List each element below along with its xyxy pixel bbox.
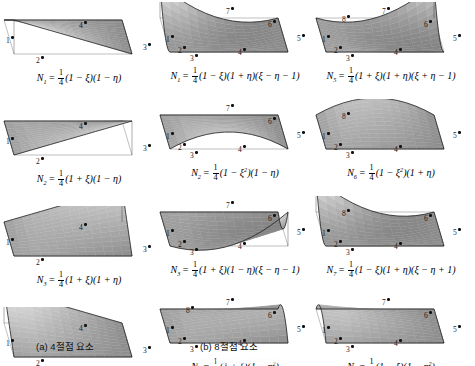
node-marker <box>347 112 350 115</box>
node-marker <box>11 339 14 342</box>
node-label: 4 <box>394 340 398 348</box>
node-label: 3 <box>346 55 350 63</box>
shape-function-formula: N7 = 14(1 − ξ)(1 + η)(ξ − η + 1) <box>312 258 470 283</box>
formula-factor-1: (1 + ξ) <box>355 70 383 81</box>
surface-plot: 123458 <box>312 99 470 161</box>
fraction-denominator: 4 <box>348 77 354 86</box>
node-marker <box>399 339 402 342</box>
surface-plot: 1234 <box>0 4 158 66</box>
node-marker <box>339 240 342 243</box>
equals-sign: = <box>180 264 191 275</box>
node-marker <box>148 144 151 147</box>
node-label: 5 <box>297 326 301 334</box>
node-label: 2 <box>36 158 40 166</box>
coefficient-fraction: 14 <box>213 164 219 182</box>
formula-factor-3: (ξ − η − 1) <box>255 70 299 81</box>
fraction-denominator: 4 <box>192 77 198 86</box>
node-label-layer: 1234 <box>0 4 158 66</box>
node-marker <box>191 306 194 309</box>
node-label: 2 <box>36 259 40 267</box>
node-marker <box>243 145 246 148</box>
formula-factor-2: (1 − η) <box>93 173 121 184</box>
node-marker <box>399 145 402 148</box>
node-label: 3 <box>190 55 194 63</box>
formula-symbol: N2 <box>191 167 201 178</box>
coefficient-fraction: 14 <box>58 271 64 289</box>
shape-function-cell: 1234N1 = 14(1 − ξ)(1 − η) <box>0 4 158 91</box>
fraction-denominator: 4 <box>58 180 64 189</box>
fraction-denominator: 4 <box>369 174 375 183</box>
coefficient-fraction: 14 <box>348 261 354 279</box>
node-marker <box>351 345 354 348</box>
node-label: 2 <box>178 338 182 346</box>
formula-factor-2: (1 + η) <box>93 274 121 285</box>
node-label: 6 <box>268 118 272 126</box>
node-marker <box>302 325 305 328</box>
equals-sign: = <box>336 70 347 81</box>
node-marker <box>273 20 276 23</box>
node-label: 2 <box>334 47 338 55</box>
node-marker <box>195 248 198 251</box>
node-marker <box>327 229 330 232</box>
node-marker <box>148 245 151 248</box>
node-marker <box>231 201 234 204</box>
formula-symbol: N3 <box>171 264 181 275</box>
node-marker <box>84 324 87 327</box>
formula-symbol: N3 <box>37 274 47 285</box>
formula-factor-3: (ξ − η − 1) <box>255 264 299 275</box>
node-marker <box>148 43 151 46</box>
node-label: 2 <box>178 144 182 152</box>
equals-sign: = <box>46 274 57 285</box>
node-label: 5 <box>453 35 457 43</box>
node-label: 4 <box>238 49 242 57</box>
node-marker <box>302 131 305 134</box>
formula-factor-1: (1 + ξ) <box>65 173 93 184</box>
node-label: 3 <box>346 152 350 160</box>
node-label: 5 <box>297 229 301 237</box>
node-label: 3 <box>143 145 147 153</box>
node-label: 1 <box>322 36 326 44</box>
fraction-denominator: 4 <box>58 79 64 88</box>
formula-symbol: N1 <box>171 70 181 81</box>
formula-symbol: N7 <box>327 264 337 275</box>
node-marker <box>399 48 402 51</box>
node-marker <box>351 54 354 57</box>
coefficient-fraction: 14 <box>348 67 354 85</box>
node-label: 2 <box>334 241 338 249</box>
node-marker <box>351 151 354 154</box>
formula-factor-2: (1 + η) <box>383 264 411 275</box>
node-label: 1 <box>6 239 10 247</box>
formula-factor-2: (1 + η) <box>383 70 411 81</box>
node-label: 1 <box>166 327 170 335</box>
shape-function-formula: N2 = 14(1 − ξ2)(1 − η) <box>156 161 314 186</box>
node-label-layer: 123458 <box>312 99 470 161</box>
node-marker <box>183 143 186 146</box>
formula-factor-1: (1 − ξ) <box>199 70 227 81</box>
formula-symbol: N6 <box>347 167 357 178</box>
shape-function-formula: N6 = 14(1 − ξ2)(1 + η) <box>312 161 470 186</box>
node-label: 2 <box>178 241 182 249</box>
caption-eight-node: (b) 8절점 요소 <box>200 339 258 353</box>
shape-function-cell: 12345678N5 = 14(1 + ξ)(1 + η)(ξ + η − 1) <box>312 2 470 89</box>
node-label: 2 <box>36 57 40 65</box>
node-label: 1 <box>166 230 170 238</box>
node-marker <box>183 240 186 243</box>
node-marker <box>84 122 87 125</box>
node-marker <box>339 337 342 340</box>
shape-function-formula: N2 = 14(1 + ξ)(1 − η) <box>0 167 158 192</box>
node-marker <box>429 20 432 23</box>
node-marker <box>171 326 174 329</box>
surface-plot: 1234567 <box>312 293 470 355</box>
surface-plot: 1234 <box>0 206 158 268</box>
fraction-denominator: 4 <box>213 174 219 183</box>
formula-factor-2: (1 − η) <box>227 264 255 275</box>
node-label-layer: 1234 <box>0 206 158 268</box>
equals-sign: = <box>201 167 212 178</box>
node-label: 5 <box>453 326 457 334</box>
node-marker <box>195 345 198 348</box>
node-marker <box>273 117 276 120</box>
node-label: 7 <box>226 8 230 16</box>
node-label: 4 <box>394 243 398 251</box>
node-marker <box>429 214 432 217</box>
formula-factor-2: (1 − η) <box>93 72 121 83</box>
